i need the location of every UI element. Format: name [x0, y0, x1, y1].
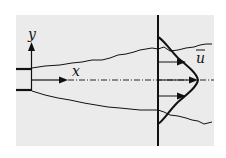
y-axis-label: y [27, 26, 37, 42]
mean-velocity-label: u [196, 50, 205, 66]
x-axis-label: x [72, 63, 80, 79]
jet-diagram: y x u [0, 0, 226, 158]
